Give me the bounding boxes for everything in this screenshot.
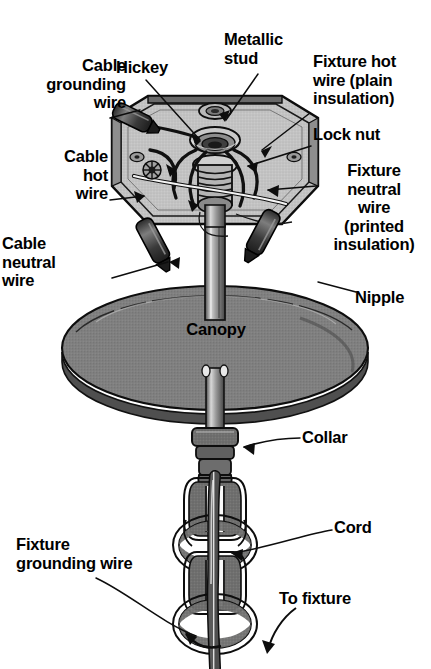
fixture-mounting-diagram: Cable grounding wire Hickey Metallic stu… — [0, 0, 431, 669]
label-lock-nut: Lock nut — [313, 125, 425, 144]
label-hickey: Hickey — [116, 58, 206, 77]
label-cable-neutral-wire: Cable neutral wire — [2, 234, 112, 290]
grounding-screw — [143, 161, 161, 179]
label-to-fixture: To fixture — [279, 589, 389, 608]
to-fixture-arrow — [262, 608, 296, 654]
label-cable-hot-wire: Cable hot wire — [2, 147, 108, 203]
label-cord: Cord — [334, 518, 400, 537]
label-fixture-hot-wire: Fixture hot wire (plain insulation) — [313, 52, 431, 108]
label-metallic-stud: Metallic stud — [224, 30, 310, 67]
chain-part — [173, 476, 257, 668]
label-fixture-grounding-wire: Fixture grounding wire — [16, 535, 198, 572]
label-cable-grounding-wire: Cable grounding wire — [2, 56, 126, 112]
label-collar: Collar — [302, 428, 378, 447]
label-fixture-neutral-wire: Fixture neutral wire (printed insulation… — [318, 161, 430, 254]
label-canopy: Canopy — [168, 320, 264, 339]
label-nipple: Nipple — [355, 288, 429, 307]
